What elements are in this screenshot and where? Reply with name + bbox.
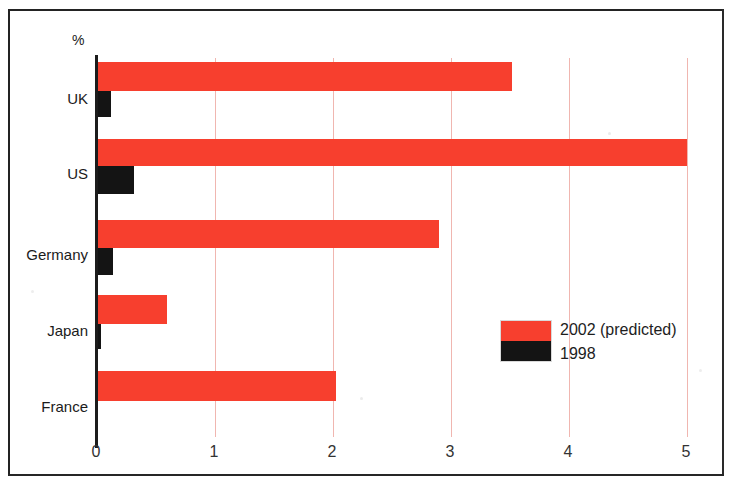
- gridline-3: [451, 58, 452, 437]
- bar-germany-2002: [98, 220, 439, 248]
- bar-france-2002: [98, 371, 336, 401]
- x-tick-label-4: 4: [553, 444, 583, 460]
- category-label-france: France: [8, 399, 88, 414]
- category-label-uk: UK: [20, 91, 88, 106]
- bar-chart: % UK US Germany Japan France 0 1 2 3: [0, 0, 732, 484]
- bar-japan-2002: [98, 295, 167, 324]
- bar-uk-2002: [98, 62, 512, 91]
- scan-speckle: [608, 132, 611, 135]
- bar-us-2002: [98, 139, 687, 166]
- bar-japan-1998: [98, 324, 101, 349]
- gridline-4: [569, 58, 570, 437]
- x-tick-label-1: 1: [199, 444, 229, 460]
- category-label-japan: Japan: [20, 323, 88, 338]
- legend-label-1998: 1998: [560, 344, 596, 364]
- bar-us-1998: [98, 166, 134, 194]
- x-tick-label-2: 2: [317, 444, 347, 460]
- scan-speckle: [360, 397, 363, 400]
- gridline-5: [687, 58, 688, 437]
- category-label-us: US: [20, 166, 88, 181]
- legend-swatch-2002: [501, 321, 551, 341]
- bar-germany-1998: [98, 248, 113, 275]
- x-tick-label-3: 3: [435, 444, 465, 460]
- y-axis-unit-label: %: [72, 32, 84, 48]
- x-tick-label-0: 0: [81, 444, 111, 460]
- x-tick-label-5: 5: [671, 444, 701, 460]
- legend-label-2002: 2002 (predicted): [560, 320, 677, 340]
- legend-swatch-1998: [501, 341, 551, 361]
- scan-speckle: [699, 369, 702, 372]
- bar-uk-1998: [98, 91, 111, 117]
- scan-speckle: [31, 290, 34, 293]
- plot-area: % UK US Germany Japan France 0 1 2 3: [0, 0, 732, 484]
- category-label-germany: Germany: [6, 247, 88, 262]
- legend-swatch: [500, 320, 552, 362]
